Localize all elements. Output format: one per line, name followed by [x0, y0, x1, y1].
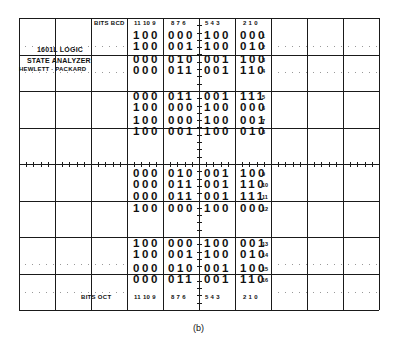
octal-digit-group: 001 [204, 190, 231, 202]
axis-tick [41, 162, 42, 167]
axis-tick [350, 162, 351, 167]
trace-dot [88, 264, 89, 265]
axis-tick [197, 127, 202, 128]
trace-dot [327, 292, 328, 293]
trace-dot [285, 264, 286, 265]
row-number: 7 [262, 118, 265, 124]
trace-dot [25, 264, 26, 265]
trace-dot [299, 292, 300, 293]
trace-dot [53, 264, 54, 265]
trace-dot [102, 46, 103, 47]
trace-dot [46, 264, 47, 265]
axis-tick [197, 135, 202, 136]
axis-tick [197, 215, 202, 216]
axis-tick [197, 186, 202, 187]
trace-dot [25, 46, 26, 47]
row-number: 12 [262, 206, 268, 212]
axis-tick [33, 162, 34, 167]
trace-dot [355, 72, 356, 73]
trace-dot [278, 72, 279, 73]
trace-dot [278, 46, 279, 47]
trace-dot [369, 72, 370, 73]
trace-dot [67, 72, 68, 73]
octal-digit-group: 100 [204, 248, 231, 260]
row-number: 2 [262, 44, 265, 50]
trace-dot [95, 264, 96, 265]
trace-dot [116, 72, 117, 73]
trace-dot [292, 46, 293, 47]
axis-tick [69, 162, 70, 167]
octal-digit-group: 011 [168, 178, 194, 190]
axis-tick [197, 113, 202, 114]
trace-dot [299, 264, 300, 265]
axis-tick [84, 162, 85, 167]
trace-dot [313, 46, 314, 47]
trace-dot [102, 264, 103, 265]
trace-dot [362, 264, 363, 265]
axis-tick [91, 162, 92, 167]
axis-tick [197, 193, 202, 194]
axis-tick [26, 162, 27, 167]
trace-dot [25, 72, 26, 73]
axis-tick [55, 162, 56, 167]
axis-tick [300, 162, 301, 167]
octal-digit-group: 001 [168, 248, 195, 260]
trace-dot [116, 264, 117, 265]
trace-dot [299, 46, 300, 47]
axis-tick [62, 162, 63, 167]
figure-caption: (b) [193, 323, 204, 333]
octal-digit-group: 000 [168, 202, 195, 214]
axis-tick [77, 162, 78, 167]
axis-tick [197, 18, 202, 19]
axis-tick [197, 281, 202, 282]
axis-tick [197, 142, 202, 143]
axis-tick [197, 259, 202, 260]
grid-line-horizontal [19, 128, 379, 129]
trace-dot [348, 72, 349, 73]
trace-dot [320, 264, 321, 265]
trace-dot [46, 72, 47, 73]
axis-tick [197, 47, 202, 48]
octal-digit-group: 000 [133, 190, 160, 202]
octal-digit-group: 001 [204, 273, 231, 285]
octal-digit-group: 001 [204, 64, 231, 76]
trace-dot [60, 264, 61, 265]
trace-dot [285, 292, 286, 293]
trace-dot [60, 72, 61, 73]
axis-tick [379, 162, 380, 167]
trace-dot [123, 72, 124, 73]
trace-dot [334, 292, 335, 293]
trace-dot [334, 264, 335, 265]
footer-bits-oct-label: BITS OCT [81, 294, 111, 300]
trace-dot [123, 264, 124, 265]
octal-digit-group: 100 [133, 248, 160, 260]
trace-dot [67, 292, 68, 293]
trace-dot [306, 46, 307, 47]
octal-digit-group: 000 [133, 273, 160, 285]
axis-tick [197, 98, 202, 99]
trace-dot [74, 264, 75, 265]
octal-digit-group: 011 [168, 273, 194, 285]
trace-dot [355, 264, 356, 265]
trace-dot [313, 292, 314, 293]
trace-dot [320, 72, 321, 73]
footer-bit-group-label: 11 10 9 [134, 294, 156, 300]
trace-dot [32, 292, 33, 293]
trace-dot [341, 72, 342, 73]
axis-tick [293, 162, 294, 167]
axis-tick [365, 162, 366, 167]
octal-digit-group: 001 [168, 40, 195, 52]
trace-dot [292, 264, 293, 265]
trace-dot [32, 46, 33, 47]
footer-bit-group-label: 8 7 6 [171, 294, 186, 300]
row-number: 15 [262, 266, 268, 272]
row-number: 13 [262, 241, 268, 247]
trace-dot [327, 264, 328, 265]
trace-dot [362, 46, 363, 47]
axis-tick [321, 162, 322, 167]
trace-dot [88, 292, 89, 293]
trace-dot [109, 292, 110, 293]
axis-tick [197, 222, 202, 223]
octal-digit-group: 000 [133, 178, 160, 190]
trace-dot [348, 264, 349, 265]
